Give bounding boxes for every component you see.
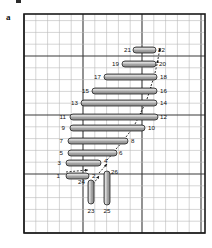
bar-19-20 (122, 61, 156, 67)
label-2: 2 (92, 172, 96, 179)
bar-5-6 (68, 150, 117, 156)
figure-panel: a 12345678910111213141516171819202122232… (0, 0, 212, 248)
bar-3-4 (66, 160, 101, 166)
label-4: 4 (104, 157, 108, 164)
label-17: 17 (94, 73, 101, 80)
label-12: 12 (160, 113, 167, 120)
panel-letter: a (6, 12, 11, 22)
label-18: 18 (160, 73, 167, 80)
bar-13-14 (81, 100, 157, 106)
label-25: 25 (104, 207, 111, 214)
bar-23-24 (88, 180, 94, 204)
label-10: 10 (148, 124, 155, 131)
label-16: 16 (160, 87, 167, 94)
label-24: 24 (78, 178, 85, 185)
bar-17-18 (104, 74, 157, 80)
label-3: 3 (58, 159, 62, 166)
label-22: 22 (158, 46, 165, 53)
label-5: 5 (60, 149, 64, 156)
label-21: 21 (124, 46, 131, 53)
label-26: 26 (111, 168, 118, 175)
crop-mark (16, 0, 21, 3)
label-19: 19 (112, 60, 119, 67)
label-8: 8 (131, 137, 135, 144)
label-14: 14 (160, 99, 167, 106)
label-13: 13 (71, 99, 78, 106)
label-15: 15 (82, 87, 89, 94)
bar-21-22 (133, 47, 156, 53)
label-20: 20 (159, 60, 166, 67)
label-7: 7 (60, 137, 64, 144)
diagram-canvas: 1234567891011121314151617181920212223242… (0, 0, 212, 248)
grid (24, 14, 205, 233)
bar-15-16 (92, 88, 157, 94)
label-1: 1 (57, 172, 61, 179)
label-6: 6 (119, 149, 123, 156)
grid-border (24, 14, 205, 233)
arrow-a (66, 170, 88, 172)
label-23: 23 (88, 207, 95, 214)
grid-frame (24, 14, 205, 233)
label-9: 9 (62, 124, 66, 131)
bar-7-8 (68, 138, 128, 144)
bar-9-10 (70, 125, 145, 131)
bar-11-12 (70, 114, 158, 120)
label-11: 11 (60, 113, 67, 120)
bar-25-26 (104, 171, 110, 205)
